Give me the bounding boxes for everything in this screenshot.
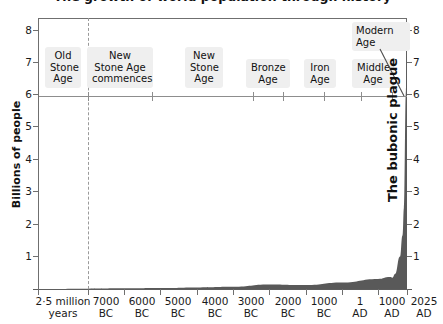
x-tick-10 xyxy=(407,289,408,295)
x-label-8: 1AD xyxy=(352,296,367,319)
x-label-9-line1: 1000 xyxy=(379,295,406,307)
y-tick-left-8 xyxy=(33,30,38,31)
era-label-new-stone-age-line3: Age xyxy=(190,73,218,85)
x-label-9: 1000AD xyxy=(379,296,406,319)
era-label-new-stone-age-commences-line2: Stone Age xyxy=(92,62,148,74)
x-label-0-line1: 2·5 million xyxy=(35,295,90,307)
y-tick-left-3 xyxy=(33,191,38,192)
era-label-modern-age: Modern Age xyxy=(352,22,410,51)
y-label-left-3: 3 xyxy=(25,186,32,197)
y-tick-right-3 xyxy=(407,191,412,192)
y-tick-right-1 xyxy=(407,256,412,257)
y-label-right-5: 5 xyxy=(413,121,420,132)
y-label-right-8: 8 xyxy=(413,25,420,36)
x-label-7-line1: 1000 xyxy=(311,295,338,307)
x-label-8-line2: AD xyxy=(352,308,367,320)
x-tick-2 xyxy=(124,289,125,295)
y-label-left-6: 6 xyxy=(25,89,32,100)
x-label-3: 5000BC xyxy=(165,296,192,319)
x-label-5-line2: BC xyxy=(238,308,265,320)
era-tick-0 xyxy=(88,92,89,101)
y-label-left-7: 7 xyxy=(25,57,32,68)
era-label-new-stone-age-line2: Stone xyxy=(190,62,218,74)
x-label-5: 3000BC xyxy=(238,296,265,319)
x-label-4: 4000BC xyxy=(202,296,229,319)
era-label-bronze-age-line2: Age xyxy=(251,74,285,86)
y-tick-left-6 xyxy=(33,94,38,95)
y-label-left-1: 1 xyxy=(25,251,32,262)
x-label-9-line2: AD xyxy=(379,308,406,320)
era-label-iron-age: Iron Age xyxy=(304,59,336,88)
y-label-left-2: 2 xyxy=(25,219,32,230)
x-tick-4 xyxy=(197,289,198,295)
x-label-3-line1: 5000 xyxy=(165,295,192,307)
x-label-2-line2: BC xyxy=(129,308,156,320)
x-label-6-line2: BC xyxy=(275,308,302,320)
x-label-10-line1: 2025 xyxy=(411,295,438,307)
x-tick-7 xyxy=(306,289,307,295)
era-label-new-stone-age-commences: New Stone Age commences xyxy=(87,47,153,88)
y-label-right-1: 1 xyxy=(413,251,420,262)
era-label-new-stone-age: New Stone Age xyxy=(185,47,223,88)
era-tick-5 xyxy=(361,92,362,101)
era-label-iron-age-line2: Age xyxy=(309,74,331,86)
y-label-right-7: 7 xyxy=(413,57,420,68)
era-label-new-stone-age-commences-line3: commences xyxy=(92,73,148,85)
x-tick-3 xyxy=(160,289,161,295)
y-tick-right-6 xyxy=(407,94,412,95)
x-label-6-line1: 2000 xyxy=(275,295,302,307)
y-label-left-8: 8 xyxy=(25,25,32,36)
era-tick-1 xyxy=(152,92,153,101)
era-label-old-stone-age-line2: Stone xyxy=(50,62,76,74)
era-label-iron-age-line1: Iron xyxy=(309,62,331,74)
era-label-old-stone-age: Old Stone Age xyxy=(45,47,81,88)
x-label-10-line2: AD xyxy=(411,308,438,320)
era-label-bronze-age-line1: Bronze xyxy=(251,62,285,74)
x-label-7: 1000BC xyxy=(311,296,338,319)
era-tick-3 xyxy=(283,92,284,101)
bubonic-plague-annotation: The bubonic plague xyxy=(385,50,405,210)
era-label-modern-age-line1: Modern xyxy=(356,25,406,37)
x-label-0-line2: years xyxy=(35,308,90,320)
x-tick-5 xyxy=(233,289,234,295)
x-label-4-line1: 4000 xyxy=(202,295,229,307)
y-tick-left-1 xyxy=(33,256,38,257)
x-label-0: 2·5 millionyears xyxy=(35,296,90,319)
y-tick-right-7 xyxy=(407,62,412,63)
era-label-old-stone-age-line3: Age xyxy=(50,73,76,85)
x-tick-6 xyxy=(269,289,270,295)
x-label-7-line2: BC xyxy=(311,308,338,320)
x-label-4-line2: BC xyxy=(202,308,229,320)
y-tick-left-5 xyxy=(33,126,38,127)
x-label-2-line1: 6000 xyxy=(129,295,156,307)
x-tick-8 xyxy=(342,289,343,295)
era-label-new-stone-age-line1: New xyxy=(190,50,218,62)
x-label-1-line1: 7000 xyxy=(93,295,120,307)
era-label-bronze-age: Bronze Age xyxy=(246,59,290,88)
y-label-right-2: 2 xyxy=(413,219,420,230)
x-label-8-line1: 1 xyxy=(357,295,364,307)
y-tick-right-2 xyxy=(407,224,412,225)
era-timeline-rule xyxy=(39,96,407,97)
y-tick-left-4 xyxy=(33,159,38,160)
population-growth-chart: The growth of world population through h… xyxy=(0,0,443,324)
y-tick-left-7 xyxy=(33,62,38,63)
x-label-3-line2: BC xyxy=(165,308,192,320)
y-label-left-5: 5 xyxy=(25,121,32,132)
y-label-left-4: 4 xyxy=(25,154,32,165)
x-label-1-line2: BC xyxy=(93,308,120,320)
x-label-6: 2000BC xyxy=(275,296,302,319)
era-label-modern-age-line2: Age xyxy=(356,37,406,49)
era-label-old-stone-age-line1: Old xyxy=(50,50,76,62)
y-label-right-6: 6 xyxy=(413,89,420,100)
era-label-new-stone-age-commences-line1: New xyxy=(92,50,148,62)
y-label-right-3: 3 xyxy=(413,186,420,197)
x-label-2: 6000BC xyxy=(129,296,156,319)
y-tick-right-5 xyxy=(407,126,412,127)
x-label-10: 2025AD xyxy=(411,296,438,319)
era-tick-4 xyxy=(324,92,325,101)
x-label-5-line1: 3000 xyxy=(238,295,265,307)
era-tick-2 xyxy=(253,92,254,101)
y-tick-right-4 xyxy=(407,159,412,160)
y-label-right-4: 4 xyxy=(413,154,420,165)
